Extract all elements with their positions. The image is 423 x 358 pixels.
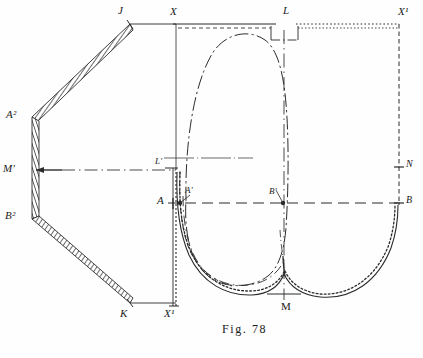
label-a-prime: A' [185, 185, 193, 195]
label-j: J [118, 4, 123, 16]
label-m-prime: M' [3, 162, 15, 174]
leader-b-prime [276, 190, 283, 203]
label-x-top-left: X [170, 5, 177, 17]
label-n: N [406, 158, 413, 169]
label-m: M [281, 300, 291, 312]
pitch-curve-dash-dot [186, 34, 288, 286]
label-l: L [283, 4, 289, 16]
offset-profile-right-dotted [285, 205, 395, 294]
leader-a-prime [180, 195, 190, 203]
label-x1-bottom: X¹ [164, 307, 175, 319]
hatched-arm-upper [32, 24, 133, 121]
cam-profile-right-solid [284, 205, 398, 297]
technical-drawing-canvas [0, 0, 423, 358]
label-l-prime: L' [155, 156, 163, 166]
label-a: A [157, 194, 164, 206]
figure-caption: Fig. 78 [222, 322, 267, 337]
hatched-arm-lower [32, 216, 133, 303]
label-b2: B² [5, 209, 16, 221]
label-b-prime: B' [269, 186, 277, 196]
label-b: B [406, 194, 412, 205]
label-k: K [120, 307, 128, 319]
figure-78-container: J X L X¹ A² M' B² L' N A A' B' B K X¹ M … [0, 0, 423, 358]
main-frame [164, 24, 399, 306]
cam-left-companion-dashdot [183, 196, 284, 285]
hatched-column [32, 117, 39, 219]
label-a2: A² [6, 108, 17, 120]
label-x1-top-right: X¹ [398, 5, 409, 17]
notch-detail-l [271, 26, 298, 40]
